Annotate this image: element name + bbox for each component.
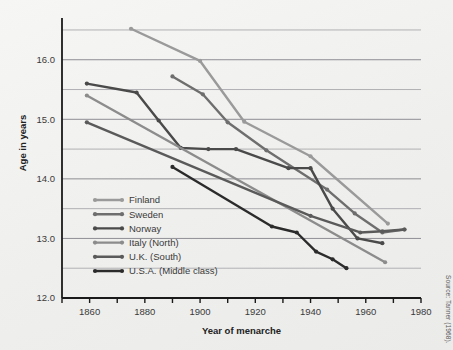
data-point <box>170 74 174 78</box>
legend-label: Finland <box>129 194 160 205</box>
data-point <box>170 165 174 169</box>
data-point <box>308 166 312 170</box>
data-point <box>386 221 390 225</box>
data-point <box>234 147 238 151</box>
data-point <box>157 118 161 122</box>
data-point <box>331 207 335 211</box>
x-tick-label: 1900 <box>190 306 211 317</box>
legend-item-u-k-south[interactable]: U.K. (South) <box>93 251 181 262</box>
data-point <box>206 147 210 151</box>
x-tick-label: 1980 <box>410 306 431 317</box>
source-note: Source: Tanner (1968). <box>445 275 452 344</box>
data-point <box>85 93 89 97</box>
x-tick-label: 1960 <box>355 306 376 317</box>
legend-swatch-marker <box>120 198 124 202</box>
data-point <box>134 90 138 94</box>
data-point <box>270 224 274 228</box>
chart-legend: FinlandSwedenNorwayItaly (North)U.K. (So… <box>93 194 218 276</box>
legend-label: U.K. (South) <box>129 251 181 262</box>
y-tick-label: 13.0 <box>37 233 56 244</box>
legend-label: Norway <box>129 223 161 234</box>
data-point <box>358 230 362 234</box>
data-point <box>383 260 387 264</box>
data-point <box>201 92 205 96</box>
legend-item-norway[interactable]: Norway <box>93 223 162 234</box>
data-point <box>286 166 290 170</box>
data-point <box>308 214 312 218</box>
legend-swatch-marker <box>120 241 124 245</box>
series-finland <box>129 27 390 226</box>
data-point <box>85 81 89 85</box>
y-tick-label: 14.0 <box>37 173 56 184</box>
data-point <box>325 187 329 191</box>
data-point <box>314 249 318 253</box>
data-point <box>402 227 406 231</box>
legend-swatch-marker <box>120 269 124 273</box>
axes-group <box>62 18 421 303</box>
x-axis-title: Year of menarche <box>202 325 281 336</box>
legend-swatch-marker <box>93 212 97 216</box>
data-point <box>308 154 312 158</box>
legend-swatch-marker <box>93 255 97 259</box>
legend-label: Sweden <box>129 209 163 220</box>
legend-swatch-marker <box>93 241 97 245</box>
data-point <box>264 148 268 152</box>
data-point <box>129 27 133 31</box>
legend-swatch-marker <box>120 255 124 259</box>
y-tick-label: 16.0 <box>37 54 56 65</box>
legend-label: U.S.A. (Middle class) <box>129 265 218 276</box>
data-point <box>380 241 384 245</box>
y-tick-label: 12.0 <box>37 292 56 303</box>
data-point <box>331 257 335 261</box>
legend-swatch-marker <box>120 226 124 230</box>
series-line <box>172 167 346 268</box>
series-norway <box>85 81 385 245</box>
legend-swatch-marker <box>93 226 97 230</box>
data-point <box>198 59 202 63</box>
legend-item-u-s-a-middle-class[interactable]: U.S.A. (Middle class) <box>93 265 218 276</box>
legend-label: Italy (North) <box>129 237 179 248</box>
x-tick-label: 1860 <box>79 306 100 317</box>
x-tick-labels-group: 1860188019001920194019601980 <box>79 306 432 317</box>
data-point <box>353 211 357 215</box>
y-tick-labels-group: 12.013.014.015.016.0 <box>37 54 56 303</box>
legend-item-sweden[interactable]: Sweden <box>93 209 163 220</box>
legend-swatch-marker <box>93 269 97 273</box>
x-tick-label: 1940 <box>300 306 321 317</box>
x-tick-label: 1880 <box>134 306 155 317</box>
chart-figure: 12.013.014.015.016.0 1860188019001920194… <box>0 0 453 350</box>
legend-item-finland[interactable]: Finland <box>93 194 160 205</box>
data-point <box>295 230 299 234</box>
legend-swatch-marker <box>120 212 124 216</box>
data-point <box>380 229 384 233</box>
data-point <box>242 120 246 124</box>
data-point <box>355 236 359 240</box>
series-u-s-a-middle-class <box>170 165 348 270</box>
y-tick-label: 15.0 <box>37 114 56 125</box>
x-tick-label: 1920 <box>245 306 266 317</box>
data-point <box>344 266 348 270</box>
menarche-line-chart: 12.013.014.015.016.0 1860188019001920194… <box>0 0 453 350</box>
legend-swatch-marker <box>93 198 97 202</box>
y-axis-title: Age in years <box>17 115 28 172</box>
data-point <box>85 120 89 124</box>
data-point <box>226 120 230 124</box>
